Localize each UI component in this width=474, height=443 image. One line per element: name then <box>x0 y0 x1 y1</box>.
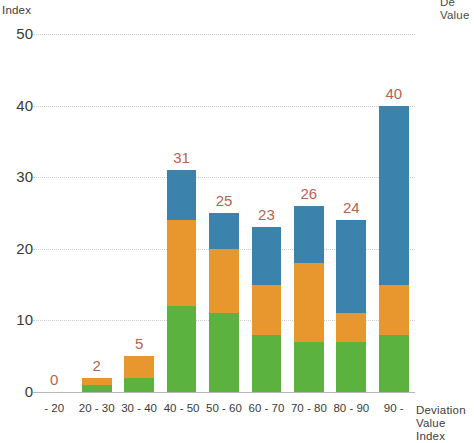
bar-total-label: 40 <box>385 85 402 102</box>
bar-segment-green[interactable] <box>209 313 239 392</box>
x-axis-title: Deviation Value Index <box>416 404 474 443</box>
bars-layer: 025312523262440 <box>33 34 415 392</box>
x-tick-label: 70 - 80 <box>291 402 327 414</box>
bar-stack[interactable] <box>209 213 239 392</box>
x-tick-label: 80 - 90 <box>333 402 369 414</box>
plot-area: 025312523262440 <box>33 34 415 392</box>
bar-segment-orange[interactable] <box>336 313 366 342</box>
bar-segment-orange[interactable] <box>82 378 112 385</box>
bar-segment-orange[interactable] <box>294 263 324 342</box>
bar-stack[interactable] <box>379 106 409 392</box>
bar-group[interactable]: 2 <box>82 34 112 392</box>
x-tick-label: 30 - 40 <box>121 402 157 414</box>
bar-total-label: 2 <box>92 357 100 374</box>
bar-group[interactable]: 31 <box>167 34 197 392</box>
bar-segment-orange[interactable] <box>379 285 409 335</box>
bar-group[interactable]: 5 <box>124 34 154 392</box>
y-axis-title: Index <box>2 4 31 17</box>
bar-total-label: 25 <box>216 192 233 209</box>
y-tick-label-0: 0 <box>0 383 33 400</box>
y-tick-label-20: 20 <box>0 240 33 257</box>
bar-stack[interactable] <box>124 356 154 392</box>
x-tick-label: - 20 <box>44 402 64 414</box>
bar-total-label: 23 <box>258 206 275 223</box>
bar-segment-orange[interactable] <box>209 249 239 313</box>
bar-stack[interactable] <box>252 227 282 392</box>
bar-segment-blue[interactable] <box>294 206 324 263</box>
bar-segment-blue[interactable] <box>252 227 282 284</box>
bar-stack[interactable] <box>82 378 112 392</box>
bar-segment-green[interactable] <box>336 342 366 392</box>
bar-segment-orange[interactable] <box>124 356 154 377</box>
bar-stack[interactable] <box>167 170 197 392</box>
bar-group[interactable]: 40 <box>379 34 409 392</box>
bar-segment-blue[interactable] <box>209 213 239 249</box>
gridline-0 <box>33 392 415 393</box>
x-tick-label: 90 - <box>384 402 404 414</box>
y-tick-label-30: 30 <box>0 168 33 185</box>
x-tick-label: 20 - 30 <box>79 402 115 414</box>
bar-segment-blue[interactable] <box>336 220 366 313</box>
bar-total-label: 26 <box>301 185 318 202</box>
bar-segment-blue[interactable] <box>379 106 409 285</box>
bar-segment-green[interactable] <box>167 306 197 392</box>
y-tick-label-40: 40 <box>0 97 33 114</box>
bar-group[interactable]: 23 <box>252 34 282 392</box>
bar-segment-orange[interactable] <box>167 220 197 306</box>
bar-segment-green[interactable] <box>379 335 409 392</box>
bar-segment-green[interactable] <box>124 378 154 392</box>
bar-stack[interactable] <box>336 220 366 392</box>
bar-segment-green[interactable] <box>82 385 112 392</box>
x-tick-label: 40 - 50 <box>164 402 200 414</box>
y-tick-label-10: 10 <box>0 311 33 328</box>
bar-total-label: 24 <box>343 199 360 216</box>
bar-total-label: 31 <box>173 149 190 166</box>
bar-stack[interactable] <box>294 206 324 392</box>
bar-segment-orange[interactable] <box>252 285 282 335</box>
x-tick-label: 50 - 60 <box>206 402 242 414</box>
clipped-series-title: De Value <box>440 0 470 22</box>
y-tick-label-50: 50 <box>0 25 33 42</box>
bar-group[interactable]: 26 <box>294 34 324 392</box>
bar-segment-green[interactable] <box>252 335 282 392</box>
bar-total-label: 0 <box>50 371 58 388</box>
bar-total-label: 5 <box>135 335 143 352</box>
bar-group[interactable]: 0 <box>39 34 69 392</box>
bar-group[interactable]: 25 <box>209 34 239 392</box>
x-tick-label: 60 - 70 <box>249 402 285 414</box>
bar-segment-green[interactable] <box>294 342 324 392</box>
bar-segment-blue[interactable] <box>167 170 197 220</box>
bar-group[interactable]: 24 <box>336 34 366 392</box>
